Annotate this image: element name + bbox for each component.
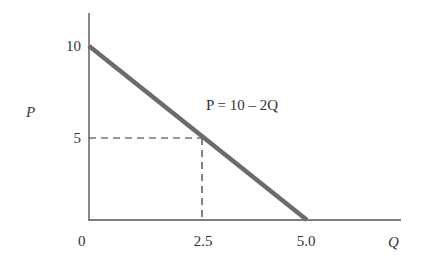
y-axis-label: P: [25, 104, 35, 120]
y-tick-5: 5: [74, 130, 82, 146]
x-tick-5.0: 5.0: [297, 233, 316, 249]
demand-line: [89, 46, 307, 220]
equation-label: P = 10 – 2Q: [206, 97, 278, 113]
x-tick-2.5: 2.5: [194, 233, 213, 249]
origin-label: 0: [78, 233, 86, 249]
x-axis-label: Q: [388, 234, 399, 250]
demand-chart: 10 5 P 0 2.5 5.0 Q P = 10 – 2Q: [0, 0, 425, 263]
y-tick-10: 10: [66, 38, 81, 54]
